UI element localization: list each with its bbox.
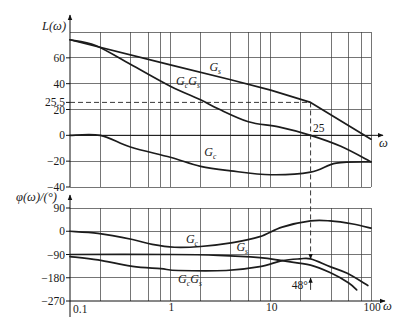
magnitude-y-tick-label: 40 — [54, 78, 66, 90]
axes-layer — [66, 15, 385, 317]
phase-x-tick-label: 10 — [266, 301, 278, 313]
magnitude-omega-axis-label: ω — [379, 136, 388, 150]
phase-curve-gcgs — [70, 257, 368, 286]
phase-x-tick-label: 100 — [363, 301, 381, 313]
magnitude-curve-label-gcgs: Gc Gs — [176, 74, 200, 90]
bode-plot-canvas: L(ω) ω φ(ω)/(°) ω 604025.5200−20−40Gs Gc… — [0, 0, 407, 329]
annotation-label: 25 — [313, 122, 325, 134]
magnitude-curve-label-gs: Gs — [209, 60, 221, 76]
magnitude-y-tick-label: −20 — [47, 155, 65, 167]
magnitude-axis-label: L(ω) — [41, 19, 66, 33]
curve-label-subscript: s — [245, 247, 248, 256]
curve-label-symbol: G — [186, 232, 195, 246]
curve-label-subscript: s — [199, 279, 202, 288]
curve-label-subscript: s — [218, 67, 221, 76]
curve-label-symbol: G — [209, 60, 218, 74]
curve-label-symbol: G — [176, 74, 185, 88]
phase-y-tick-label: 0 — [59, 225, 65, 237]
curve-label-subscript: c — [213, 152, 217, 161]
curves-layer — [70, 40, 371, 290]
magnitude-y-tick-label: −40 — [47, 181, 65, 193]
magnitude-y-tick-label: 60 — [54, 52, 66, 64]
phase-y-tick-label: −90 — [47, 249, 65, 261]
phase-omega-axis-label: ω — [383, 299, 392, 313]
curve-label-symbol: G — [204, 145, 213, 159]
curve-label-symbol: G — [188, 74, 197, 88]
curve-label-symbol: G — [190, 272, 199, 286]
phase-curve-gc — [70, 220, 371, 247]
magnitude-curve-gs — [70, 40, 371, 139]
curve-label-symbol: G — [236, 240, 245, 254]
annotation-label: 48° — [292, 279, 309, 291]
phase-x-tick-label: 1 — [168, 301, 174, 313]
bode-diagram-figure: L(ω) ω φ(ω)/(°) ω 604025.5200−20−40Gs Gc… — [0, 0, 407, 329]
phase-curve-label-gs: Gs — [236, 240, 248, 256]
magnitude-y-tick-label: 20 — [54, 104, 66, 116]
curve-label-symbol: G — [178, 272, 187, 286]
curve-label-subscript: s — [197, 81, 200, 90]
phase-y-tick-label: −270 — [41, 295, 65, 307]
phase-y-tick-label: 90 — [54, 202, 66, 214]
magnitude-curve-label-gc: Gc — [204, 145, 217, 161]
phase-curve-label-gcgs: Gc Gs — [178, 272, 202, 288]
phase-x-tick-label: 0.1 — [73, 303, 88, 315]
phase-y-tick-label: −180 — [41, 272, 65, 284]
magnitude-y-tick-label: 0 — [59, 129, 65, 141]
phase-curve-label-gc: Gc — [186, 232, 199, 248]
